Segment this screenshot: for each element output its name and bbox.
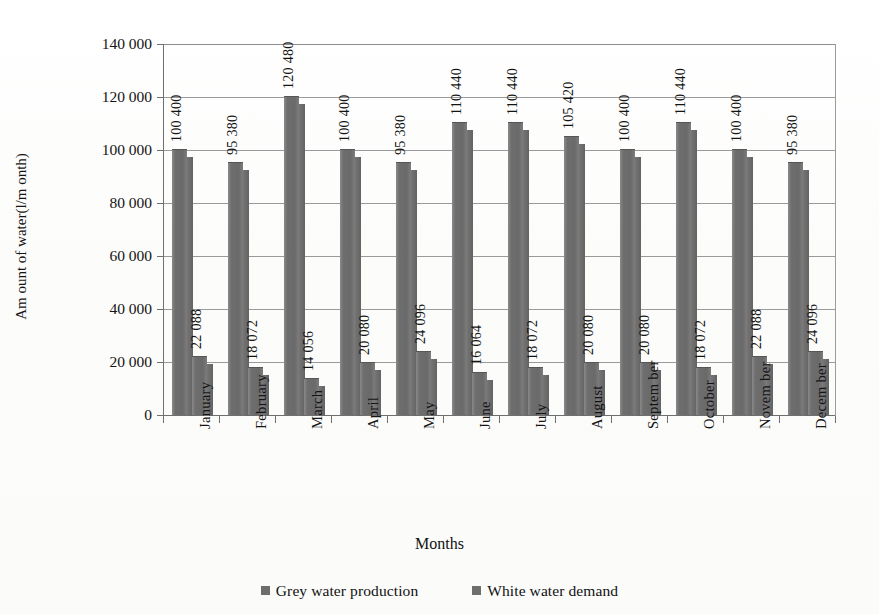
y-axis-tick-mark	[157, 256, 164, 257]
x-axis-tick-mark	[219, 416, 220, 423]
x-axis-tick-mark	[499, 416, 500, 423]
x-axis-category-label: May	[421, 402, 438, 429]
bar-group: 100 40022 088	[723, 44, 779, 415]
bar-value-label: 20 080	[581, 314, 597, 354]
y-axis-tick-label: 40 000	[0, 300, 152, 318]
bar-group: 100 40020 080	[611, 44, 667, 415]
x-axis-category-label: April	[365, 397, 382, 429]
y-axis-tick-mark	[157, 309, 164, 310]
bar-group: 95 38018 072	[219, 44, 275, 415]
bar-chart-figure: Am ount of water(l/m onth) 020 00040 000…	[0, 0, 879, 614]
bar-value-label: 110 440	[505, 68, 521, 115]
bar-group: 120 48014 056	[275, 44, 331, 415]
x-axis-category-label: January	[197, 382, 214, 429]
x-axis-category-label: February	[253, 374, 270, 429]
legend-item[interactable]: Grey water production	[261, 582, 418, 600]
x-axis-category-label: June	[477, 401, 494, 429]
y-axis-tick-mark	[157, 44, 164, 45]
bar-group: 110 44018 072	[499, 44, 555, 415]
legend-label: Grey water production	[276, 582, 418, 600]
x-axis-tick-mark	[275, 416, 276, 423]
plot-right-border	[835, 44, 836, 416]
x-axis-category-label: October	[701, 380, 718, 429]
bar-group: 100 40022 088	[163, 44, 219, 415]
bar-value-label: 20 080	[357, 314, 373, 354]
x-axis-category-label: Novem ber	[757, 361, 774, 429]
x-axis-tick-mark	[443, 416, 444, 423]
bar-grey-water-production[interactable]	[508, 122, 523, 415]
bar-value-label: 18 072	[693, 320, 709, 360]
bar-value-label: 16 064	[469, 325, 485, 365]
x-axis-tick-mark	[835, 416, 836, 423]
y-axis-tick-label: 20 000	[0, 353, 152, 371]
bar-value-label: 24 096	[413, 304, 429, 344]
bar-grey-water-production[interactable]	[788, 162, 803, 415]
x-axis-category-label: July	[533, 404, 550, 429]
bar-value-label: 20 080	[637, 314, 653, 354]
bar-grey-water-production[interactable]	[228, 162, 243, 415]
bar-value-label: 100 400	[169, 94, 185, 142]
bar-value-label: 95 380	[785, 115, 801, 155]
x-axis-tick-mark	[331, 416, 332, 423]
bar-grey-water-production[interactable]	[340, 149, 355, 415]
bar-group: 100 40020 080	[331, 44, 387, 415]
bar-group: 110 44018 072	[667, 44, 723, 415]
chart-legend: Grey water productionWhite water demand	[0, 582, 879, 600]
legend-swatch-grey-water	[261, 586, 270, 595]
y-axis-tick-label: 60 000	[0, 247, 152, 265]
bar-group: 95 38024 096	[387, 44, 443, 415]
bar-grey-water-production[interactable]	[172, 149, 187, 415]
bar-value-label: 18 072	[245, 320, 261, 360]
x-axis-tick-mark	[723, 416, 724, 423]
y-axis-tick-mark	[157, 150, 164, 151]
bar-value-label: 22 088	[189, 309, 205, 349]
y-axis-tick-label: 100 000	[0, 141, 152, 159]
y-axis-tick-label: 120 000	[0, 88, 152, 106]
y-axis-tick-mark	[157, 362, 164, 363]
x-axis-category-label: Decem ber	[813, 363, 830, 429]
y-axis-tick-label: 80 000	[0, 194, 152, 212]
bar-value-label: 110 440	[673, 68, 689, 115]
x-axis-tick-mark	[667, 416, 668, 423]
bar-value-label: 95 380	[393, 115, 409, 155]
bar-value-label: 24 096	[805, 304, 821, 344]
bar-grey-water-production[interactable]	[620, 149, 635, 415]
bar-grey-water-production[interactable]	[452, 122, 467, 415]
legend-swatch-white-water	[472, 586, 481, 595]
bar-value-label: 100 400	[729, 94, 745, 142]
bar-grey-water-production[interactable]	[732, 149, 747, 415]
bar-group: 110 44016 064	[443, 44, 499, 415]
x-axis-tick-mark	[163, 416, 164, 423]
bar-grey-water-production[interactable]	[564, 136, 579, 415]
y-axis-tick-label: 140 000	[0, 35, 152, 53]
bar-value-label: 18 072	[525, 320, 541, 360]
bar-value-label: 100 400	[617, 94, 633, 142]
y-axis-tick-mark	[157, 203, 164, 204]
x-axis-title: Months	[0, 535, 879, 553]
y-axis-tick-label: 0	[0, 406, 152, 424]
bar-grey-water-production[interactable]	[396, 162, 411, 415]
bar-grey-water-production[interactable]	[676, 122, 691, 415]
y-axis-tick-labels: 020 00040 00060 00080 000100 000120 0001…	[0, 0, 158, 614]
bar-group: 95 38024 096	[779, 44, 835, 415]
x-axis-tick-mark	[387, 416, 388, 423]
x-axis-category-label: August	[589, 385, 606, 429]
bar-value-label: 110 440	[449, 68, 465, 115]
x-axis-tick-mark	[779, 416, 780, 423]
x-axis-tick-mark	[611, 416, 612, 423]
legend-item[interactable]: White water demand	[472, 582, 618, 600]
bar-value-label: 95 380	[225, 115, 241, 155]
x-axis-tick-mark	[555, 416, 556, 423]
y-axis-tick-mark	[157, 97, 164, 98]
bar-value-label: 22 088	[749, 309, 765, 349]
bar-value-label: 120 480	[281, 41, 297, 89]
bar-value-label: 14 056	[301, 330, 317, 370]
x-axis-category-label: March	[309, 390, 326, 429]
legend-label: White water demand	[487, 582, 618, 600]
bar-value-label: 100 400	[337, 94, 353, 142]
bar-value-label: 105 420	[561, 81, 577, 129]
x-axis-category-label: Septem ber	[645, 360, 662, 429]
bar-grey-water-production[interactable]	[284, 96, 299, 415]
plot-area: 100 40022 08895 38018 072120 48014 05610…	[163, 44, 835, 415]
bar-group: 105 42020 080	[555, 44, 611, 415]
